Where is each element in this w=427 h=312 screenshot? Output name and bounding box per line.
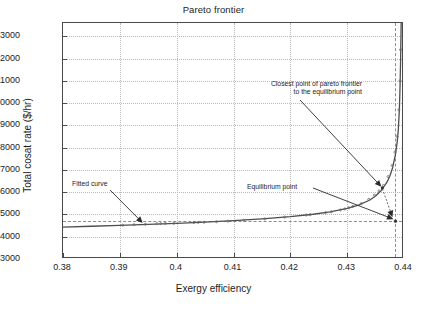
plot-inner xyxy=(63,23,402,257)
y-axis-tick-label: 10000 xyxy=(0,97,20,107)
data-point-marker xyxy=(394,151,396,153)
annotation-fitted-curve: Fitted curve xyxy=(72,180,108,188)
annotation-closest-point: Closest point of pareto frontier to the … xyxy=(232,80,362,97)
annotation-equilibrium-point: Equilibrium point xyxy=(247,183,297,191)
y-axis-tick-label: 12000 xyxy=(0,53,20,63)
x-axis-tick-label: 0.44 xyxy=(394,262,412,272)
y-axis-tick-label: 4000 xyxy=(0,231,20,241)
y-axis-tick-label: 3000 xyxy=(0,253,20,263)
data-point-marker xyxy=(368,198,370,200)
series-layer xyxy=(63,23,403,258)
x-axis-tick-label: 0.38 xyxy=(53,262,71,272)
x-axis-tick-label: 0.43 xyxy=(337,262,355,272)
data-point-marker xyxy=(378,190,380,192)
y-axis-tick-label: 13000 xyxy=(0,30,20,40)
chart-title: Pareto frontier xyxy=(0,4,427,15)
y-axis-tick-label: 5000 xyxy=(0,208,20,218)
data-point-marker xyxy=(387,176,389,178)
y-axis-tick-label: 11000 xyxy=(0,75,20,85)
marker-equilibrium-point xyxy=(394,220,397,223)
y-axis-title: Total cosat rate ($/hr) xyxy=(22,31,33,261)
y-axis-tick-label: 7000 xyxy=(0,164,20,174)
x-axis-tick-label: 0.42 xyxy=(281,262,299,272)
x-axis-tick-label: 0.41 xyxy=(224,262,242,272)
fitted-curve-line xyxy=(63,23,401,227)
y-axis-tick-label: 8000 xyxy=(0,142,20,152)
pareto-frontier-figure: Pareto frontier Total cosat rate ($/hr) … xyxy=(0,0,427,312)
x-axis-title: Exergy efficiency xyxy=(0,283,427,294)
x-axis-tick-label: 0.39 xyxy=(110,262,128,272)
marker-closest-point xyxy=(381,186,384,189)
x-axis-tick-label: 0.4 xyxy=(169,262,182,272)
y-axis-tick-label: 9000 xyxy=(0,119,20,129)
annotation-closest-point-line1: Closest point of pareto frontier xyxy=(232,80,362,88)
y-axis-tick-label: 6000 xyxy=(0,186,20,196)
data-point-marker xyxy=(373,194,375,196)
data-point-marker xyxy=(391,164,393,166)
annotation-closest-point-line2: to the equilibrium point xyxy=(232,88,362,96)
plot-area xyxy=(62,22,403,258)
